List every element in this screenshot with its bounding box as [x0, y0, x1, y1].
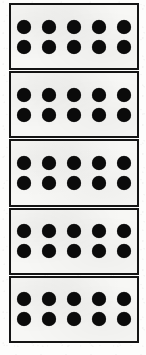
dot: [92, 88, 106, 102]
dot: [117, 292, 131, 306]
dot-grid: [17, 156, 131, 190]
dot-row: [17, 176, 131, 190]
dot: [42, 292, 56, 306]
dot: [117, 176, 131, 190]
dot: [42, 244, 56, 258]
ten-frame-card[interactable]: [9, 3, 139, 70]
dot-grid: [17, 20, 131, 54]
dot: [117, 312, 131, 326]
dot-row: [17, 40, 131, 54]
dot: [117, 40, 131, 54]
ten-frame-card[interactable]: [9, 276, 139, 343]
dot: [67, 176, 81, 190]
dot: [42, 156, 56, 170]
dot: [17, 108, 31, 122]
dot: [42, 20, 56, 34]
dot: [17, 156, 31, 170]
dot: [67, 156, 81, 170]
ten-frame-card[interactable]: [9, 208, 139, 275]
dot: [67, 20, 81, 34]
dot: [17, 20, 31, 34]
dot: [67, 224, 81, 238]
dot: [92, 312, 106, 326]
dot: [42, 224, 56, 238]
dot-row: [17, 292, 131, 306]
dot-row: [17, 312, 131, 326]
dot: [92, 156, 106, 170]
dot-row: [17, 88, 131, 102]
dot-row: [17, 224, 131, 238]
dot: [117, 88, 131, 102]
worksheet-sheet: [0, 0, 146, 355]
dot-grid: [17, 224, 131, 258]
dot: [67, 244, 81, 258]
dot: [42, 312, 56, 326]
dot-row: [17, 156, 131, 170]
dot-row: [17, 108, 131, 122]
dot: [17, 292, 31, 306]
dot-grid: [17, 88, 131, 122]
dot: [117, 224, 131, 238]
dot: [117, 20, 131, 34]
dot: [117, 108, 131, 122]
dot: [17, 88, 31, 102]
dot: [67, 292, 81, 306]
dot: [42, 40, 56, 54]
dot: [67, 88, 81, 102]
dot-row: [17, 244, 131, 258]
dot-grid: [17, 292, 131, 326]
dot: [17, 224, 31, 238]
dot: [92, 40, 106, 54]
dot: [92, 176, 106, 190]
dot-row: [17, 20, 131, 34]
dot: [92, 20, 106, 34]
dot: [117, 156, 131, 170]
dot: [67, 108, 81, 122]
dot: [17, 176, 31, 190]
dot: [42, 88, 56, 102]
dot: [42, 176, 56, 190]
dot: [17, 244, 31, 258]
ten-frame-card[interactable]: [9, 71, 139, 138]
dot: [92, 108, 106, 122]
dot: [17, 40, 31, 54]
dot: [42, 108, 56, 122]
dot: [92, 292, 106, 306]
ten-frame-card[interactable]: [9, 139, 139, 206]
dot: [67, 312, 81, 326]
dot: [17, 312, 31, 326]
dot: [92, 244, 106, 258]
dot: [67, 40, 81, 54]
ten-frame-stack: [9, 3, 139, 343]
dot: [92, 224, 106, 238]
dot: [117, 244, 131, 258]
